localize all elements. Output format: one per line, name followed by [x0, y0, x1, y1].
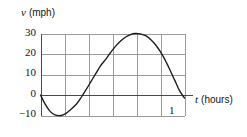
vertical-gridlines [42, 34, 186, 116]
plot-area [0, 0, 247, 137]
velocity-curve [41, 33, 185, 115]
velocity-time-graph: v(mph) t(hours) 30 20 10 0 −10 1 [0, 0, 247, 137]
horizontal-gridlines [41, 35, 185, 117]
